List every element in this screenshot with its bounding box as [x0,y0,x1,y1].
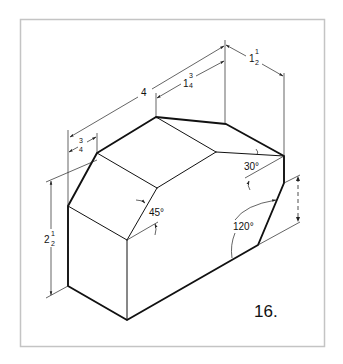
dimension-top-offset: 1 3 4 [156,61,224,117]
dimension-height: 2 1 2 [44,160,97,298]
dim-label-depth-den: 2 [255,59,259,66]
dim-label-height-whole: 2 [44,234,50,245]
dimension-left-chamfer: 3 4 [69,133,97,153]
dim-label-top-offset-num: 3 [189,72,193,79]
dim-label-left-chamfer-num: 3 [79,137,83,144]
block-outline [68,117,284,320]
block-inner-edges [68,117,284,320]
angle-label-45: 45° [149,207,164,218]
dim-label-height-num: 1 [51,230,55,237]
dim-label-overall-length: 4 [141,87,147,98]
dim-label-depth-num: 1 [255,48,259,55]
angle-label-120: 120° [233,221,254,232]
figure-frame [21,20,325,347]
figure-number: 16. [254,302,278,321]
dim-label-left-chamfer-den: 4 [79,146,83,153]
angle-120: 120° [231,200,276,258]
dimension-right-dashed [258,175,300,245]
angle-45: 45° [127,200,164,240]
dim-label-top-offset-den: 4 [189,82,193,89]
dim-label-height-den: 2 [51,240,55,247]
angle-label-30: 30° [244,161,259,172]
technical-drawing: 4 1 3 4 1 1 2 3 4 2 1 2 [0,0,343,364]
